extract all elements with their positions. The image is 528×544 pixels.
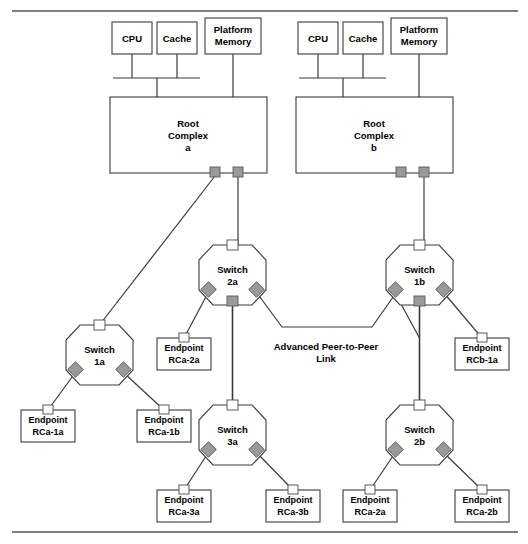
switch-2b-label-line2: 2b — [414, 436, 425, 447]
switch-2b[interactable]: Switch 2b — [386, 400, 453, 465]
switch-1a-upstream-port[interactable] — [94, 320, 105, 330]
endpoint-rca-3b-port[interactable] — [288, 485, 298, 494]
endpoint-rca-1a-label-line1: Endpoint — [29, 415, 68, 425]
switch-1b[interactable]: Switch 1b — [386, 240, 453, 306]
endpoint-rca-3a[interactable]: Endpoint RCa-3a — [157, 485, 211, 522]
host-block-platform-memory-b-label-line2: Memory — [401, 36, 438, 47]
endpoint-rca-3b-label-line1: Endpoint — [274, 495, 313, 505]
endpoint-rca-3a-label-line2: RCa-3a — [168, 507, 200, 517]
switch-1b-label-line1: Switch — [404, 264, 435, 275]
endpoint-rca-1b-label-line2: RCa-1b — [148, 427, 180, 437]
link-switch-2b-to-endpoint-rca-2a — [370, 453, 395, 490]
link-switch-3a-to-endpoint-rca-3b — [257, 453, 293, 490]
root-complex-b[interactable]: Root Complex b — [296, 97, 453, 177]
host-block-cache-b-label: Cache — [349, 33, 378, 44]
link-switch-1b-to-endpoint-rcb-1a — [444, 293, 482, 338]
switch-3a-label-line1: Switch — [217, 424, 248, 435]
host-block-cache-a[interactable]: Cache — [157, 22, 197, 54]
root-complex-a-label-line2: Complex — [168, 130, 209, 141]
endpoint-rca-3a-label-line1: Endpoint — [165, 495, 204, 505]
switch-2a-upstream-port[interactable] — [227, 240, 238, 250]
host-block-platform-memory-a[interactable]: Platform Memory — [205, 18, 261, 54]
endpoint-rca-1b-label-line1: Endpoint — [145, 415, 184, 425]
endpoint-rcb-1a-label-line1: Endpoint — [463, 343, 502, 353]
endpoint-rca-2a-top[interactable]: Endpoint RCa-2a — [157, 333, 211, 370]
switch-1b-downstream-port-center[interactable] — [414, 296, 425, 306]
endpoint-rca-1a[interactable]: Endpoint RCa-1a — [21, 405, 75, 442]
endpoint-rca-3a-port[interactable] — [179, 485, 189, 494]
root-complex-a-label-line1: Root — [177, 118, 199, 129]
switch-2b-label-line1: Switch — [404, 424, 435, 435]
endpoint-rcb-1a[interactable]: Endpoint RCb-1a — [455, 333, 509, 370]
link-switch-1a-to-endpoint-rca-1b — [124, 373, 164, 410]
endpoint-rca-2a-bottom-label-line2: RCa-2a — [354, 507, 386, 517]
host-block-platform-memory-b-label-line1: Platform — [400, 24, 439, 35]
host-block-cache-a-label: Cache — [163, 33, 192, 44]
endpoint-rca-3b[interactable]: Endpoint RCa-3b — [266, 485, 320, 522]
p2p-link-label-line1: Advanced Peer-to-Peer — [274, 341, 379, 352]
switch-1a-label-line2: 1a — [94, 356, 105, 367]
switch-3a-label-line2: 3a — [227, 436, 238, 447]
root-complex-a-port-1[interactable] — [210, 167, 220, 177]
link-switch-2a-to-endpoint-rca-2a — [184, 293, 208, 338]
endpoint-rca-1a-label-line2: RCa-1a — [32, 427, 64, 437]
switch-1a[interactable]: Switch 1a — [66, 320, 133, 385]
endpoint-rca-2a-bottom[interactable]: Endpoint RCa-2a — [343, 485, 397, 522]
endpoint-rca-2b-port[interactable] — [477, 485, 487, 494]
host-block-cpu-a[interactable]: CPU — [112, 22, 152, 54]
root-complex-b-label-line3: b — [371, 142, 377, 153]
endpoint-rca-2a-top-label-line1: Endpoint — [165, 343, 204, 353]
endpoint-rca-2b-label-line1: Endpoint — [463, 495, 502, 505]
endpoint-rcb-1a-port[interactable] — [477, 333, 487, 342]
link-root-a-to-switch-1a — [100, 176, 216, 325]
root-complex-b-label-line1: Root — [363, 118, 385, 129]
switch-1b-label-line2: 1b — [414, 276, 425, 287]
link-switch-3a-to-endpoint-rca-3a — [184, 453, 208, 490]
pcie-topology-diagram: CPU Cache Platform Memory CPU Cache Plat… — [0, 0, 528, 544]
switch-2a-label-line1: Switch — [217, 264, 248, 275]
root-complex-b-label-line2: Complex — [354, 130, 395, 141]
endpoint-rca-2a-bottom-label-line1: Endpoint — [351, 495, 390, 505]
switch-1a-label-line1: Switch — [84, 344, 115, 355]
host-block-platform-memory-a-label-line2: Memory — [215, 36, 252, 47]
endpoint-rca-1b[interactable]: Endpoint RCa-1b — [137, 405, 191, 442]
endpoint-rca-1a-port[interactable] — [43, 405, 53, 414]
host-block-cache-b[interactable]: Cache — [343, 22, 383, 54]
endpoint-rca-2a-top-port[interactable] — [179, 333, 189, 342]
switch-1b-upstream-port[interactable] — [414, 240, 425, 250]
link-switch-2b-to-endpoint-rca-2b — [444, 453, 482, 490]
host-block-platform-memory-b[interactable]: Platform Memory — [391, 18, 447, 54]
root-complex-a-label-line3: a — [185, 142, 191, 153]
endpoint-rca-3b-label-line2: RCa-3b — [277, 507, 309, 517]
switch-2a-downstream-port-center[interactable] — [227, 296, 238, 306]
endpoint-rca-1b-port[interactable] — [159, 405, 169, 414]
endpoint-rcb-1a-label-line2: RCb-1a — [466, 355, 498, 365]
host-block-platform-memory-a-label-line1: Platform — [214, 24, 253, 35]
endpoint-rca-2b[interactable]: Endpoint RCa-2b — [455, 485, 509, 522]
endpoint-rca-2b-label-line2: RCa-2b — [466, 507, 498, 517]
switch-3a[interactable]: Switch 3a — [199, 400, 266, 465]
root-complex-b-port-1[interactable] — [396, 167, 406, 177]
host-block-cpu-b[interactable]: CPU — [298, 22, 338, 54]
endpoint-rca-2a-top-label-line2: RCa-2a — [168, 355, 200, 365]
endpoint-rca-2a-bottom-port[interactable] — [365, 485, 375, 494]
switch-2a-label-line2: 2a — [227, 276, 238, 287]
host-block-cpu-a-label: CPU — [122, 33, 142, 44]
advanced-peer-to-peer-link-annotation: Advanced Peer-to-Peer Link — [274, 341, 379, 364]
switch-2a[interactable]: Switch 2a — [199, 240, 266, 306]
root-complex-b-port-2[interactable] — [419, 167, 429, 177]
p2p-link-label-line2: Link — [316, 353, 336, 364]
link-switch-1a-to-endpoint-rca-1a — [48, 373, 75, 410]
root-complex-a[interactable]: Root Complex a — [110, 97, 267, 177]
switch-2b-upstream-port[interactable] — [414, 400, 425, 410]
host-block-cpu-b-label: CPU — [308, 33, 328, 44]
diagram-canvas: CPU Cache Platform Memory CPU Cache Plat… — [0, 0, 528, 544]
link-advanced-peer-to-peer — [257, 293, 396, 327]
switch-3a-upstream-port[interactable] — [227, 400, 238, 410]
root-complex-a-port-2[interactable] — [233, 167, 243, 177]
